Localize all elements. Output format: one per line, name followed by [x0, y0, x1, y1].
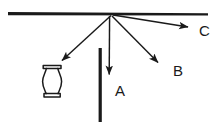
vector-c — [113, 15, 188, 27]
vector-b — [112, 16, 158, 63]
figure-canvas: A B C — [0, 0, 221, 134]
vector-to-vase — [62, 16, 111, 61]
vase-object — [43, 66, 62, 97]
horizontal-support-bar — [8, 12, 208, 16]
vertical-post — [99, 48, 102, 122]
vector-label-b: B — [173, 62, 183, 79]
force-diagram-svg: A B C — [0, 0, 221, 134]
vector-label-a: A — [115, 82, 125, 99]
vector-label-c: C — [199, 22, 210, 39]
